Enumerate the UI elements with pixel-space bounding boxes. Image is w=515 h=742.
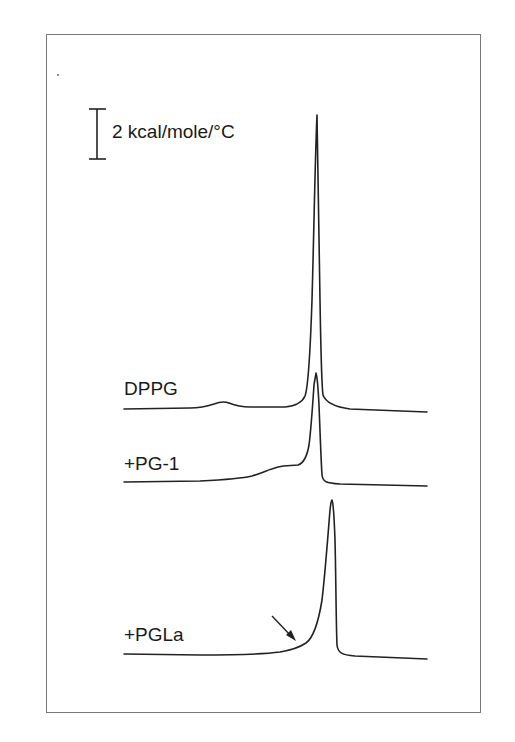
series-label-pg1: +PG-1 (124, 454, 179, 473)
scale-bar (89, 109, 106, 159)
series-label-pgla: +PGLa (124, 625, 184, 644)
scale-bar-label: 2 kcal/mole/°C (112, 122, 235, 141)
plot-area (0, 0, 515, 742)
dsc-figure: 2 kcal/mole/°C DPPG +PG-1 +PGLa (0, 0, 515, 742)
arrow-annotation (272, 616, 296, 641)
trace-dppg (124, 115, 427, 412)
series-label-dppg: DPPG (124, 379, 178, 398)
speck (57, 74, 59, 76)
